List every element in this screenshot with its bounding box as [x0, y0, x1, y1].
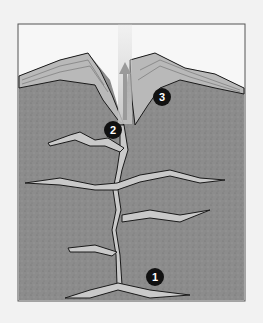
- marker-1: 1: [146, 268, 164, 286]
- marker-2: 2: [104, 121, 122, 139]
- marker-3: 3: [153, 88, 171, 106]
- diagram-stage: 1 2 3: [0, 0, 263, 323]
- volcano-cross-section: [0, 0, 263, 323]
